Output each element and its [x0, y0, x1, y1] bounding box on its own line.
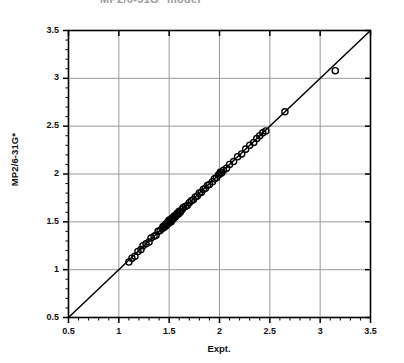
x-tick-label: 0.5	[54, 326, 84, 336]
x-tick-label: 3.5	[356, 326, 386, 336]
chart-figure: MP2/6-31G* model MP2/6-31G* Expt. 0.511.…	[0, 0, 404, 363]
x-tick-label: 1	[104, 326, 134, 336]
x-tick-label: 1.5	[154, 326, 184, 336]
y-tick-label: 2.5	[27, 120, 59, 130]
y-tick-label: 1	[27, 264, 59, 274]
x-tick-label: 3	[305, 326, 335, 336]
y-tick-label: 1.5	[27, 216, 59, 226]
scatter-plot-canvas	[0, 0, 404, 363]
y-tick-label: 2	[27, 168, 59, 178]
data-points	[126, 68, 339, 266]
y-tick-label: 3	[27, 72, 59, 82]
y-tick-label: 3.5	[27, 25, 59, 35]
x-tick-label: 2.5	[255, 326, 285, 336]
x-tick-label: 2	[205, 326, 235, 336]
y-tick-label: 0.5	[27, 312, 59, 322]
data-point	[332, 68, 338, 74]
